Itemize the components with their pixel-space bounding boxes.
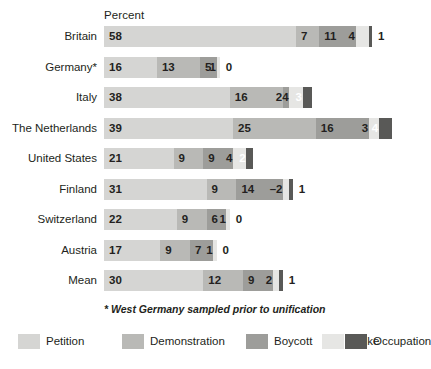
bar-segment-occupation <box>369 26 372 47</box>
legend-swatch-strike <box>322 334 344 349</box>
segment-value: 2 <box>276 87 282 108</box>
chart-row: Mean3012921 <box>0 270 425 301</box>
stacked-bar: 17971 <box>104 240 217 261</box>
chart-legend: PetitionDemonstrationBoycottStrikeOccupa… <box>0 330 425 354</box>
bar-segment-strike: 1 <box>226 209 229 230</box>
chart-row: Switzerland229610 <box>0 209 425 240</box>
bar-segment-petition: 39 <box>104 118 233 139</box>
bar-segment-occupation: 4 <box>379 118 392 139</box>
segment-value: 2 <box>266 270 272 291</box>
legend-label: Boycott <box>274 335 312 347</box>
segment-value: 13 <box>162 57 175 78</box>
bar-segment-strike: –2 <box>283 179 290 200</box>
bar-segment-strike: 1 <box>217 57 220 78</box>
segment-value-outside: 0 <box>223 240 229 261</box>
segment-value: 22 <box>109 209 122 230</box>
legend-item-petition[interactable]: Petition <box>18 330 84 352</box>
legend-swatch-occupation <box>345 334 367 349</box>
bar-segment-occupation <box>279 270 282 291</box>
bar-segment-petition: 16 <box>104 57 157 78</box>
segment-value: 4 <box>282 87 288 108</box>
segment-value: 9 <box>179 148 185 169</box>
segment-value-outside: 0 <box>236 209 242 230</box>
segment-value: 12 <box>208 270 221 291</box>
segment-value: 9 <box>212 179 218 200</box>
bar-segment-occupation: 3 <box>303 87 313 108</box>
segment-value: 3 <box>296 87 302 108</box>
bar-segment-demonstration: 25 <box>233 118 316 139</box>
stacked-bar: 3816243 <box>104 87 312 108</box>
bar-segment-petition: 38 <box>104 87 230 108</box>
segment-value: 14 <box>241 179 254 200</box>
legend-item-boycott[interactable]: Boycott <box>246 330 312 352</box>
chart-row: Austria179710 <box>0 240 425 271</box>
segment-value: 9 <box>248 270 254 291</box>
bar-segment-strike: 2 <box>273 270 280 291</box>
segment-value: 3 <box>362 118 368 139</box>
bar-segment-petition: 58 <box>104 26 296 47</box>
chart-row: Finland31914–21 <box>0 179 425 210</box>
legend-item-demonstration[interactable]: Demonstration <box>122 330 225 352</box>
segment-value: 1 <box>219 209 225 230</box>
legend-swatch-boycott <box>246 334 268 349</box>
stacked-bar: 161351 <box>104 57 220 78</box>
bar-segment-demonstration: 13 <box>157 57 200 78</box>
legend-label: Demonstration <box>150 335 225 347</box>
chart-row: Germany*1613510 <box>0 57 425 88</box>
segment-value: 6 <box>212 209 218 230</box>
segment-value: 4 <box>372 118 378 139</box>
chart-row: Italy3816243 <box>0 87 425 118</box>
stacked-bar: 31914–2 <box>104 179 293 200</box>
chart-footnote: * West Germany sampled prior to unificat… <box>104 303 326 315</box>
row-label-the-netherlands: The Netherlands <box>0 118 97 139</box>
segment-value: 16 <box>235 87 248 108</box>
stacked-bar: 219942 <box>104 148 253 169</box>
segment-value: 4 <box>349 26 355 47</box>
legend-swatch-demonstration <box>122 334 144 349</box>
bar-segment-petition: 21 <box>104 148 174 169</box>
bar-segment-petition: 31 <box>104 179 207 200</box>
chart-rows: Britain5871141Germany*1613510Italy381624… <box>0 26 425 301</box>
segment-value: 30 <box>109 270 122 291</box>
segment-value: 25 <box>238 118 251 139</box>
segment-value: 2 <box>239 148 245 169</box>
row-label-finland: Finland <box>0 179 97 200</box>
bar-segment-demonstration: 7 <box>296 26 319 47</box>
stacked-bar: 22961 <box>104 209 230 230</box>
legend-label: Petition <box>46 335 84 347</box>
segment-value: 7 <box>195 240 201 261</box>
stacked-bar: 587114 <box>104 26 372 47</box>
segment-value: 9 <box>208 148 214 169</box>
bar-segment-strike: 1 <box>213 240 216 261</box>
legend-label: Occupation <box>373 335 431 347</box>
row-label-mean: Mean <box>0 270 97 291</box>
bar-segment-petition: 30 <box>104 270 203 291</box>
chart-row: United States219942 <box>0 148 425 179</box>
bar-segment-demonstration: 9 <box>177 209 207 230</box>
segment-value: 38 <box>109 87 122 108</box>
bar-segment-demonstration: 9 <box>207 179 237 200</box>
legend-item-occupation[interactable]: Occupation <box>345 330 431 352</box>
bar-segment-petition: 17 <box>104 240 160 261</box>
row-label-switzerland: Switzerland <box>0 209 97 230</box>
bar-segment-demonstration: 9 <box>174 148 204 169</box>
row-label-germany: Germany* <box>0 57 97 78</box>
row-label-austria: Austria <box>0 240 97 261</box>
segment-value-outside: 1 <box>289 270 295 291</box>
row-label-italy: Italy <box>0 87 97 108</box>
segment-value: 16 <box>321 118 334 139</box>
row-label-britain: Britain <box>0 26 97 47</box>
segment-value: 1 <box>206 240 212 261</box>
segment-value: 7 <box>301 26 307 47</box>
bar-segment-occupation: 2 <box>246 148 253 169</box>
segment-value: –2 <box>270 179 283 200</box>
segment-value: 17 <box>109 240 122 261</box>
bar-segment-strike: 4 <box>356 26 369 47</box>
segment-value: 9 <box>165 240 171 261</box>
bar-segment-occupation <box>289 179 292 200</box>
segment-value: 58 <box>109 26 122 47</box>
segment-value: 1 <box>210 57 216 78</box>
segment-value: 4 <box>226 148 232 169</box>
chart-row: Britain5871141 <box>0 26 425 57</box>
bar-segment-petition: 22 <box>104 209 177 230</box>
